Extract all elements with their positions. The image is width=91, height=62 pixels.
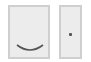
left-panel[interactable] [8, 5, 50, 59]
right-panel[interactable] [59, 5, 82, 59]
dot-icon [69, 33, 72, 36]
smile-arc-icon [16, 43, 44, 53]
